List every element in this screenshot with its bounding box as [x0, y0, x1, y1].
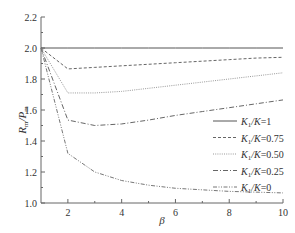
- y-tick-label: 1.0: [25, 198, 38, 209]
- legend-label: K1/K=0.50: [240, 149, 284, 162]
- y-axis-label: Rm/Pm: [16, 106, 30, 135]
- x-tick-label: 10: [278, 207, 288, 218]
- y-tick-label: 1.8: [25, 74, 38, 85]
- series-line-2: [41, 48, 283, 93]
- line-chart: 1.01.21.41.61.82.02.2246810 K1/K=1K1/K=0…: [0, 0, 295, 233]
- svg-text:Rm/Pm: Rm/Pm: [16, 106, 30, 135]
- x-tick-label: 2: [65, 207, 70, 218]
- y-tick-label: 2.2: [25, 12, 38, 23]
- legend-label: K1/K=0: [240, 182, 271, 195]
- series-line-1: [41, 48, 283, 69]
- legend-label: K1/K=0.75: [240, 133, 284, 146]
- legend: K1/K=1K1/K=0.75K1/K=0.50K1/K=0.25K1/K=0: [213, 116, 284, 195]
- y-tick-label: 1.2: [25, 167, 38, 178]
- series-line-3: [41, 48, 283, 126]
- x-tick-label: 6: [173, 207, 178, 218]
- x-tick-label: 4: [119, 207, 124, 218]
- legend-label: K1/K=1: [240, 116, 271, 129]
- y-tick-label: 2.0: [25, 43, 38, 54]
- legend-label: K1/K=0.25: [240, 166, 284, 179]
- x-tick-label: 8: [227, 207, 232, 218]
- x-axis-label: β: [158, 214, 165, 226]
- y-tick-label: 1.4: [25, 136, 38, 147]
